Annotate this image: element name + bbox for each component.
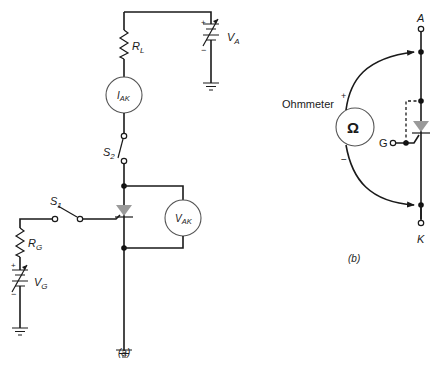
ohmmeter: Ω Ohmmeter + − (282, 52, 414, 205)
ohmmeter-label: Ohmmeter (282, 98, 334, 110)
svg-text:+: + (201, 18, 206, 27)
anode-switch-s2: S2 (103, 133, 127, 186)
svg-text:−: − (341, 154, 347, 165)
figure-b: A G K Ω Ohmmeter + − (b) (282, 12, 430, 264)
gate-terminal-label: G (379, 137, 388, 149)
positive-probe-arrow-icon (346, 52, 414, 110)
svg-text:+: + (341, 91, 346, 101)
negative-probe-arrow-icon (346, 145, 414, 205)
figure-a: RL IAK S2 (11, 12, 240, 358)
anode-terminal (418, 26, 423, 31)
ground-icon (203, 83, 219, 90)
ohm-icon: Ω (347, 119, 359, 136)
svg-text:VA: VA (227, 31, 240, 46)
figure-b-caption: (b) (348, 253, 360, 264)
scr-triangle-icon (116, 205, 132, 216)
gate-resistor: RG (16, 219, 52, 270)
anode-supply-battery: + − VA (201, 18, 240, 90)
cathode-terminal (418, 220, 423, 225)
top-wire (124, 12, 211, 24)
svg-text:−: − (201, 45, 206, 55)
scr-triangle-icon (413, 121, 429, 132)
gate-supply-battery: + − VG (11, 261, 48, 335)
switch-s1-label: S1 (50, 195, 62, 210)
scr-device-a (115, 183, 133, 350)
cathode-terminal-label: K (417, 233, 425, 245)
figure-a-caption: (a) (118, 347, 130, 358)
svg-text:−: − (11, 289, 16, 299)
load-resistor-label: RL (132, 40, 144, 55)
scr-test-circuit-diagram: RL IAK S2 (0, 0, 432, 369)
load-resistor: RL (120, 12, 144, 77)
svg-text:RG: RG (28, 237, 42, 252)
switch-s2-label: S2 (103, 146, 115, 161)
ground-icon (12, 328, 28, 335)
svg-text:+: + (11, 261, 16, 270)
gate-terminal (390, 140, 395, 145)
gate-switch-s1: S1 (50, 195, 120, 222)
anode-terminal-label: A (416, 12, 424, 24)
svg-text:VG: VG (34, 276, 48, 291)
anode-voltage-meter: VAK (124, 186, 201, 248)
anode-current-meter: IAK (106, 77, 142, 133)
